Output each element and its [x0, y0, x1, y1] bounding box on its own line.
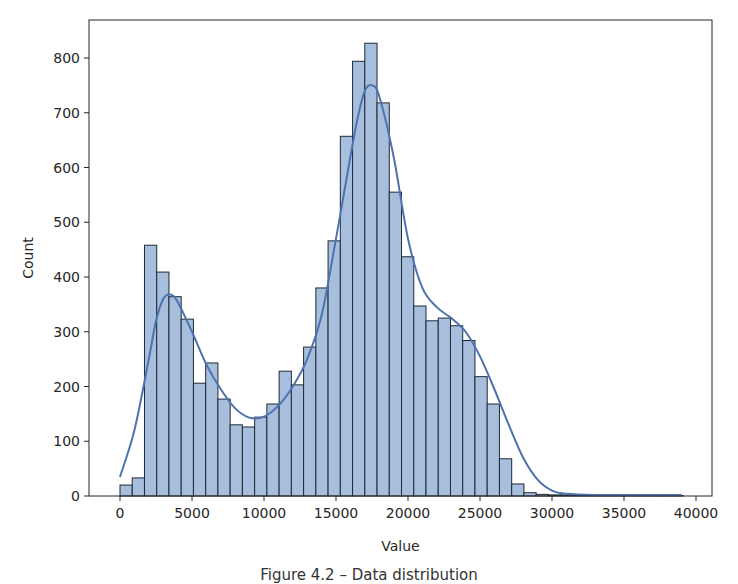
- x-tick-label: 5000: [174, 505, 210, 521]
- histogram-bar: [426, 321, 438, 496]
- histogram-chart: 0500010000150002000025000300003500040000…: [0, 0, 738, 566]
- y-tick-label: 200: [53, 379, 80, 395]
- y-axis-label: Count: [20, 237, 36, 279]
- y-axis-ticks: 0100200300400500600700800: [53, 50, 89, 504]
- histogram-bar: [181, 319, 193, 496]
- histogram-bar: [316, 288, 328, 496]
- histogram-bar: [328, 241, 340, 496]
- histogram-bar: [340, 136, 352, 496]
- y-tick-label: 0: [71, 488, 80, 504]
- histogram-bar: [512, 484, 524, 496]
- histogram-bar: [450, 326, 462, 496]
- x-tick-label: 15000: [314, 505, 359, 521]
- histogram-bar: [499, 459, 511, 496]
- x-tick-label: 40000: [674, 505, 719, 521]
- histogram-bars: [120, 43, 683, 496]
- histogram-bar: [304, 347, 316, 496]
- histogram-bar: [353, 61, 365, 496]
- histogram-bar: [230, 425, 242, 496]
- histogram-bar: [291, 385, 303, 496]
- histogram-bar: [132, 478, 144, 496]
- figure-caption: Figure 4.2 – Data distribution: [0, 566, 738, 584]
- histogram-bar: [120, 485, 132, 496]
- histogram-bar: [463, 341, 475, 496]
- histogram-bar: [438, 318, 450, 496]
- histogram-bar: [402, 257, 414, 496]
- x-tick-label: 20000: [386, 505, 431, 521]
- y-tick-label: 500: [53, 214, 80, 230]
- x-tick-label: 25000: [458, 505, 503, 521]
- x-axis-ticks: 0500010000150002000025000300003500040000: [116, 496, 719, 521]
- histogram-bar: [157, 272, 169, 496]
- y-tick-label: 100: [53, 433, 80, 449]
- x-tick-label: 0: [116, 505, 125, 521]
- x-axis-label: Value: [381, 538, 419, 554]
- histogram-bar: [169, 297, 181, 496]
- x-tick-label: 10000: [242, 505, 287, 521]
- histogram-bar: [377, 103, 389, 496]
- histogram-bar: [475, 377, 487, 496]
- histogram-bar: [193, 383, 205, 496]
- histogram-bar: [242, 427, 254, 496]
- y-tick-label: 300: [53, 324, 80, 340]
- histogram-bar: [255, 417, 267, 496]
- histogram-bar: [487, 404, 499, 496]
- histogram-bar: [218, 399, 230, 496]
- x-tick-label: 30000: [530, 505, 575, 521]
- histogram-bar: [365, 43, 377, 496]
- histogram-bar: [414, 306, 426, 496]
- x-tick-label: 35000: [602, 505, 647, 521]
- y-tick-label: 700: [53, 105, 80, 121]
- y-tick-label: 600: [53, 160, 80, 176]
- histogram-bar: [389, 192, 401, 496]
- y-tick-label: 800: [53, 50, 80, 66]
- y-tick-label: 400: [53, 269, 80, 285]
- histogram-bar: [267, 404, 279, 496]
